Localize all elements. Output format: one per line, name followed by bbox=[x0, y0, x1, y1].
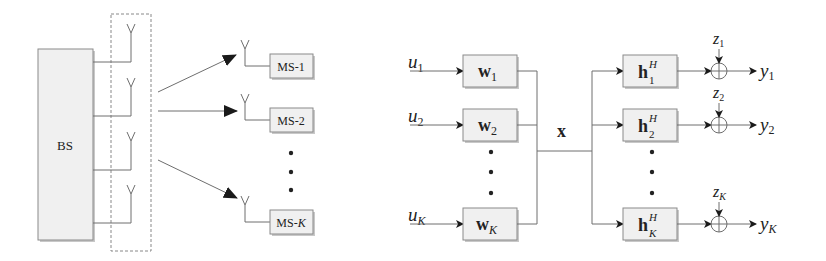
precoder-w1: w1 bbox=[463, 55, 519, 89]
mobile-station-1: MS-1 bbox=[241, 40, 315, 80]
sum-junction-2: z2 y2 bbox=[677, 84, 774, 137]
mobile-station-2: MS-2 bbox=[241, 94, 315, 134]
ellipsis-dots-precoders bbox=[489, 150, 493, 195]
transmit-arrow-k bbox=[158, 160, 237, 198]
svg-text:z2: z2 bbox=[712, 84, 724, 103]
bs-antenna-4 bbox=[93, 185, 135, 223]
svg-text:K: K bbox=[648, 227, 657, 239]
bs-antenna-2 bbox=[93, 78, 135, 116]
svg-text:1: 1 bbox=[649, 74, 655, 86]
transmit-signal-x: x bbox=[557, 121, 566, 141]
combiner-bus bbox=[517, 71, 592, 224]
diagram-canvas: BS MS-1 bbox=[0, 0, 826, 261]
mobile-station-k: MS-K bbox=[241, 196, 315, 236]
channel-h1: h H 1 bbox=[623, 55, 679, 89]
transmit-arrow-1 bbox=[158, 55, 236, 92]
distribution-bus bbox=[592, 71, 623, 224]
svg-text:y2: y2 bbox=[758, 114, 774, 137]
svg-text:y1: y1 bbox=[758, 60, 774, 83]
input-u2: u2 bbox=[408, 105, 463, 129]
svg-text:H: H bbox=[648, 58, 658, 70]
svg-text:z1: z1 bbox=[712, 30, 724, 49]
sum-junction-k: zK yK bbox=[677, 183, 777, 236]
multiuser-downlink-system: BS MS-1 bbox=[38, 14, 315, 251]
svg-text:h: h bbox=[638, 62, 648, 82]
svg-text:H: H bbox=[648, 112, 658, 124]
svg-text:MS-2: MS-2 bbox=[277, 114, 304, 128]
ellipsis-dots-ms bbox=[289, 151, 293, 192]
svg-text:2: 2 bbox=[649, 128, 655, 140]
svg-text:h: h bbox=[638, 215, 648, 235]
channel-hk: h H K bbox=[623, 208, 679, 242]
sum-junction-1: z1 y1 bbox=[677, 30, 774, 83]
svg-text:zK: zK bbox=[712, 183, 727, 202]
channel-h2: h H 2 bbox=[623, 109, 679, 143]
svg-text:yK: yK bbox=[758, 213, 777, 236]
precoding-block-diagram: u1 u2 uK w1 w2 wK bbox=[408, 30, 777, 242]
bs-antenna-3 bbox=[93, 132, 135, 170]
svg-text:h: h bbox=[638, 116, 648, 136]
svg-text:H: H bbox=[648, 211, 658, 223]
precoder-w2: w2 bbox=[463, 109, 519, 143]
ellipsis-dots-channels bbox=[650, 150, 654, 195]
bs-antenna-1 bbox=[93, 24, 135, 62]
base-station-label: BS bbox=[57, 138, 73, 153]
base-station-block: BS bbox=[38, 49, 95, 242]
svg-text:MS-K: MS-K bbox=[276, 216, 306, 230]
precoder-wk: wK bbox=[463, 208, 519, 242]
svg-text:MS-1: MS-1 bbox=[277, 60, 304, 74]
input-u1: u1 bbox=[408, 51, 463, 75]
input-uk: uK bbox=[408, 204, 463, 228]
